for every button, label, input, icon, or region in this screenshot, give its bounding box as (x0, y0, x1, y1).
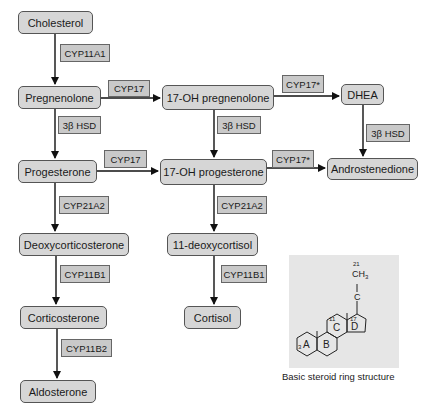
enzyme-cyp21a2-left: CYP21A2 (59, 196, 109, 214)
node-cortisol: Cortisol (184, 306, 241, 329)
enzyme-cyp17-top: CYP17 (108, 80, 150, 97)
node-deoxycorticosterone: Deoxycorticosterone (19, 233, 129, 256)
enzyme-3bhsd-right: 3β HSD (366, 124, 410, 142)
node-cholesterol: Cholesterol (18, 11, 93, 34)
node-corticosterone: Corticosterone (20, 306, 107, 329)
c-label: C (354, 292, 361, 302)
node-pregnenolone: Pregnenolone (18, 86, 101, 109)
enzyme-cyp11a1: CYP11A1 (60, 44, 110, 62)
steroid-structure-panel: A B C D 21 CH3 C 17 11 3 (289, 255, 399, 368)
ring-b-label: B (323, 339, 330, 350)
node-aldosterone: Aldosterone (20, 380, 96, 403)
enzyme-cyp21a2-mid: CYP21A2 (217, 196, 267, 214)
steroid-structure-caption: Basic steroid ring structure (282, 371, 394, 382)
enzyme-cyp11b1-right: CYP11B1 (221, 265, 267, 283)
node-17oh-pregnenolone: 17-OH pregnenolone (162, 85, 274, 110)
enzyme-cyp17star-mid: CYP17* (272, 150, 314, 168)
enzyme-3bhsd-mid: 3β HSD (217, 116, 261, 134)
ring-a-label: A (303, 339, 310, 350)
node-androstenedione: Androstenedione (327, 158, 418, 180)
node-progesterone: Progesterone (18, 160, 97, 183)
ch3-label: CH3 (352, 269, 369, 280)
steroid-ring-icon: A B C D 21 CH3 C 17 11 3 (289, 255, 399, 368)
c21-label: 21 (353, 261, 360, 267)
node-17oh-progesterone: 17-OH progesterone (160, 159, 267, 185)
ring-d-label: D (351, 321, 358, 332)
node-dhea: DHEA (341, 84, 384, 105)
enzyme-3bhsd-left: 3β HSD (58, 116, 101, 134)
c11-label: 11 (329, 316, 336, 322)
node-11-deoxycortisol: 11-deoxycortisol (167, 233, 258, 256)
enzyme-cyp17-mid: CYP17 (104, 150, 147, 168)
enzyme-cyp11b1-left: CYP11B1 (60, 265, 110, 283)
enzyme-cyp11b2: CYP11B2 (61, 339, 112, 357)
c3-label: 3 (298, 344, 302, 350)
c17-label: 17 (350, 316, 357, 322)
enzyme-cyp17star-top: CYP17* (282, 75, 324, 93)
ring-c-label: C (333, 322, 340, 333)
